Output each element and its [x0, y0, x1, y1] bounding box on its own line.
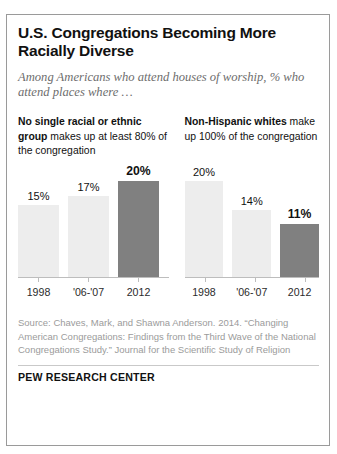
x-axis-label: 1998 [185, 286, 224, 298]
bar [280, 224, 319, 277]
bar-group: 20% [118, 164, 159, 277]
bar [118, 181, 159, 277]
panel-right-axis [185, 277, 320, 283]
bar-group: 11% [280, 207, 319, 277]
x-axis-label: 1998 [18, 286, 59, 298]
x-axis-label: '06-'07 [232, 286, 271, 298]
chart-panel-right: Non-Hispanic whites make up 100% of the … [169, 115, 320, 298]
footer-divider [18, 365, 319, 366]
panel-left-axis [18, 277, 169, 283]
bar-value-label: 20% [193, 166, 215, 178]
axis-tick [205, 278, 206, 282]
axis-tick [88, 278, 89, 282]
footer-brand: PEW RESEARCH CENTER [18, 371, 319, 383]
axis-tick [138, 278, 139, 282]
page-title: U.S. Congregations Becoming More Raciall… [18, 24, 319, 61]
panel-right-heading-bold: Non-Hispanic whites [185, 116, 287, 127]
infographic-card: U.S. Congregations Becoming More Raciall… [6, 14, 330, 446]
x-axis-label: '06-'07 [68, 286, 109, 298]
bar [185, 181, 224, 277]
axis-tick [255, 278, 256, 282]
bar [232, 210, 271, 277]
chart-panel-left: No single racial or ethnic group makes u… [18, 115, 169, 298]
panel-right-x-labels: 1998 '06-'07 2012 [185, 286, 320, 298]
bar-group: 20% [185, 166, 224, 277]
panel-left-x-labels: 1998 '06-'07 2012 [18, 286, 169, 298]
panel-left-bars: 15% 17% 20% [18, 165, 169, 277]
panel-right-bars: 20% 14% 11% [185, 165, 320, 277]
bar-group: 17% [68, 181, 109, 278]
axis-tick [305, 278, 306, 282]
chart-subtitle: Among Americans who attend houses of wor… [18, 70, 319, 102]
bar-value-label: 15% [27, 190, 49, 202]
axis-tick [38, 278, 39, 282]
bar [18, 205, 59, 277]
panel-left-plot: 15% 17% 20% [18, 165, 169, 277]
panel-right-heading: Non-Hispanic whites make up 100% of the … [185, 115, 320, 161]
bar [68, 196, 109, 278]
x-axis-label: 2012 [118, 286, 159, 298]
source-note: Source: Chaves, Mark, and Shawna Anderso… [18, 316, 319, 356]
bar-value-label: 14% [241, 195, 263, 207]
bar-group: 14% [232, 195, 271, 277]
panel-left-heading: No single racial or ethnic group makes u… [18, 115, 169, 161]
bar-value-label: 17% [77, 181, 99, 193]
chart-panels: No single racial or ethnic group makes u… [18, 115, 319, 298]
panel-right-plot: 20% 14% 11% [185, 165, 320, 277]
bar-group: 15% [18, 190, 59, 277]
bar-value-label: 20% [126, 164, 150, 178]
x-axis-label: 2012 [280, 286, 319, 298]
bar-value-label: 11% [288, 207, 312, 221]
